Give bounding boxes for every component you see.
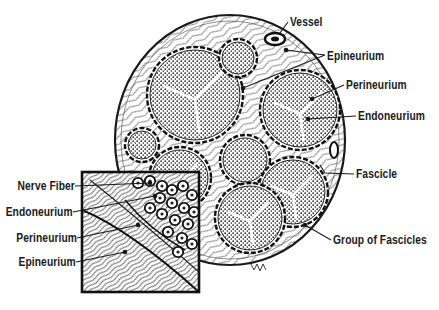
label-endoneurium: Endoneurium	[358, 109, 425, 123]
fascicle-small-top	[219, 39, 257, 77]
nerve-diagram: Vessel Epineurium Perineurium Endoneuriu…	[0, 0, 439, 310]
label-vessel: Vessel	[290, 15, 322, 29]
fascicle-right-upper	[260, 70, 340, 150]
label-perineurium: Perineurium	[346, 78, 407, 92]
fascicle-small-left	[125, 128, 159, 162]
fascicle-bottom-center	[215, 183, 285, 253]
inset-magnified-view	[82, 172, 199, 292]
label-inset-nerve-fiber: Nerve Fiber	[18, 179, 75, 193]
label-fascicle: Fascicle	[356, 167, 397, 181]
label-inset-perineurium: Perineurium	[16, 231, 77, 245]
label-inset-endoneurium: Endoneurium	[6, 205, 73, 219]
label-inset-epineurium: Epineurium	[19, 255, 76, 269]
label-group-of-fascicles: Group of Fascicles	[333, 233, 427, 247]
label-epineurium: Epineurium	[327, 49, 384, 63]
